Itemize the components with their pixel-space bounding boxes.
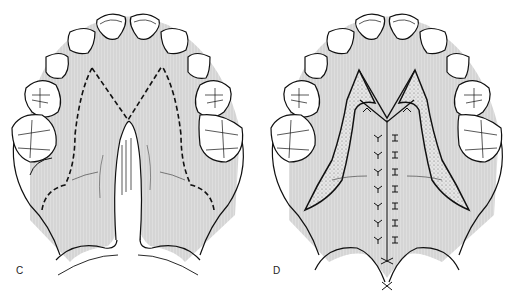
panel-d: D: [257, 0, 515, 293]
palate-cleft-illustration: [0, 0, 258, 293]
panel-label-c: C: [16, 265, 23, 276]
panel-label-d: D: [273, 265, 280, 276]
panel-c: C: [0, 0, 258, 293]
palate-repair-illustration: [257, 0, 515, 293]
